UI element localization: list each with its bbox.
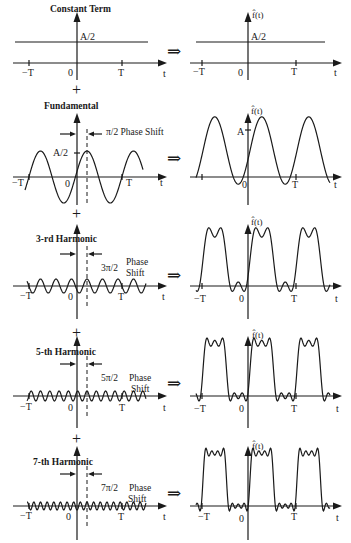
phase-shift-label: 7π/2	[101, 483, 118, 493]
output-fhat-label: f̂(t)	[251, 106, 263, 117]
shift-word-label: Shift	[126, 268, 144, 278]
tick-zero: 0	[238, 67, 243, 78]
fourier-partial-sum-wave	[196, 338, 330, 401]
tick-neg-t: −T	[193, 66, 205, 77]
row-title-constant-term: Constant Term	[50, 4, 111, 15]
tick-neg-t: −T	[194, 403, 206, 414]
tick-zero: 0	[239, 293, 244, 304]
output-fhat-label: f̂(t)	[251, 217, 263, 228]
plus-icon: +	[72, 206, 81, 222]
shift-word-label: Shift	[131, 384, 149, 394]
tick-zero: 0	[239, 403, 244, 414]
tick-pos-t: T	[118, 67, 124, 78]
implies-arrow-icon: ⇒	[167, 150, 181, 167]
axis-arrowhead-icon	[74, 224, 81, 234]
tick-pos-t: T	[118, 511, 124, 522]
left-amplitude-label: A/2	[80, 31, 95, 42]
axis-arrowhead-icon	[333, 503, 342, 510]
axis-arrowhead-icon	[245, 12, 252, 22]
tick-pos-t: T	[292, 179, 298, 190]
arrowhead-icon	[70, 362, 76, 367]
plus-icon: +	[72, 82, 81, 98]
axis-arrowhead-icon	[158, 60, 167, 67]
tick-zero: 0	[65, 178, 70, 189]
axis-t-label: t	[163, 68, 166, 79]
tick-neg-t: −T	[12, 177, 24, 188]
axis-arrowhead-icon	[245, 446, 252, 456]
axis-t-label: t	[335, 293, 338, 304]
tick-zero: 0	[239, 513, 244, 524]
shift-word-label: Shift	[128, 494, 146, 504]
arrowhead-icon	[70, 252, 76, 257]
axis-arrowhead-icon	[333, 60, 342, 67]
tick-neg-t: −T	[22, 67, 34, 78]
tick-neg-t: −T	[20, 290, 32, 301]
arrowhead-icon	[88, 362, 94, 367]
axis-arrowhead-icon	[158, 283, 167, 290]
tick-pos-t: T	[118, 291, 124, 302]
plus-icon: +	[72, 431, 81, 447]
axis-arrowhead-icon	[74, 446, 81, 456]
axis-t-label: t	[160, 177, 163, 188]
row-title-7th-harmonic: 7-th Harmonic	[33, 457, 93, 468]
row-title-5th-harmonic: 5-th Harmonic	[36, 347, 96, 358]
tick-pos-t: T	[291, 66, 297, 77]
axis-t-label: t	[336, 512, 339, 523]
phase-shift-label: 3π/2	[101, 263, 118, 273]
axis-t-label: t	[162, 291, 165, 302]
implies-arrow-icon: ⇒	[167, 375, 181, 392]
tick-pos-t: T	[291, 403, 297, 414]
tick-zero: 0	[68, 67, 73, 78]
phase-word-label: Phase	[129, 373, 151, 383]
axis-arrowhead-icon	[74, 113, 81, 123]
tick-pos-t: T	[291, 511, 297, 522]
arrowhead-icon	[70, 472, 76, 477]
tick-zero: 0	[68, 291, 73, 302]
fourier-partial-sum-wave	[196, 448, 330, 511]
implies-arrow-icon: ⇒	[167, 267, 181, 284]
tick-zero: 0	[66, 511, 71, 522]
axis-t-label: t	[334, 179, 337, 190]
arrowhead-icon	[88, 472, 94, 477]
axis-arrowhead-icon	[333, 393, 342, 400]
axis-arrowhead-icon	[158, 393, 167, 400]
implies-arrow-icon: ⇒	[167, 43, 181, 60]
phase-word-label: Phase	[126, 257, 148, 267]
output-fhat-label: f̂(t)	[252, 10, 264, 21]
tick-pos-t: T	[126, 177, 132, 188]
axis-t-label: t	[163, 402, 166, 413]
axis-t-label: t	[334, 67, 337, 78]
tick-neg-t: −T	[20, 401, 32, 412]
fourier-partial-sum-wave	[196, 228, 330, 292]
tick-zero: 0	[68, 402, 73, 413]
axis-t-label: t	[163, 511, 166, 522]
tick-zero: 0	[242, 179, 247, 190]
phase-word-label: Phase	[129, 483, 151, 493]
right-amplitude-label: A/2	[251, 31, 266, 42]
axis-arrowhead-icon	[245, 336, 252, 346]
phase-shift-label: 5π/2	[101, 373, 118, 383]
output-fhat-label: f̂(t)	[252, 330, 264, 341]
arrowhead-icon	[88, 132, 94, 137]
axis-arrowhead-icon	[333, 283, 342, 290]
arrowhead-icon	[88, 252, 94, 257]
phase-shift-label: π/2 Phase Shift	[106, 127, 164, 137]
row-title-3rd-harmonic: 3-rd Harmonic	[36, 234, 97, 245]
implies-arrow-icon: ⇒	[167, 485, 181, 502]
right-amplitude-label: A	[237, 126, 244, 137]
tick-pos-t: T	[119, 402, 125, 413]
row-title-fundamental: Fundamental	[44, 101, 98, 112]
tick-neg-t: −T	[194, 293, 206, 304]
tick-neg-t: −T	[20, 510, 32, 521]
output-fhat-label: f̂(t)	[252, 441, 264, 452]
axis-t-label: t	[336, 403, 339, 414]
axis-arrowhead-icon	[158, 503, 167, 510]
arrowhead-icon	[70, 132, 76, 137]
tick-neg-t: −T	[198, 511, 210, 522]
left-amplitude-label: A/2	[53, 147, 68, 158]
tick-pos-t: T	[291, 293, 297, 304]
plus-icon: +	[72, 325, 81, 341]
fourier-partial-sum-wave	[196, 117, 330, 184]
